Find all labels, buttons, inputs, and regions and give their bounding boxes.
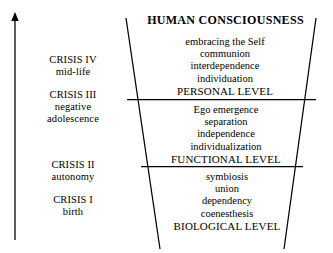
- level-personal-item-4: individuation: [130, 73, 320, 85]
- crisis-label-2-title: CRISIS II: [13, 159, 133, 171]
- crisis-label-1-subtitle: birth: [13, 206, 133, 218]
- level-biological-item-1: symbiosis: [142, 171, 312, 183]
- level-functional-item-1: Ego emergence: [136, 104, 316, 116]
- diagram-title: HUMAN CONSCIOUSNESS: [123, 13, 328, 28]
- crisis-label-3-subtitle: negative: [13, 101, 133, 113]
- consciousness-levels-diagram: HUMAN CONSCIOUSNESS CRISIS IV mid-life C…: [0, 0, 333, 253]
- crisis-label-2-subtitle: autonomy: [13, 171, 133, 183]
- level-block-biological: symbiosis union dependency coenesthesis …: [142, 171, 312, 233]
- crisis-label-4: CRISIS IV mid-life: [13, 54, 133, 78]
- level-functional-item-3: independence: [136, 128, 316, 140]
- crisis-label-2: CRISIS II autonomy: [13, 159, 133, 183]
- level-personal-item-2: communion: [130, 48, 320, 60]
- level-block-functional: Ego emergence separation independence in…: [136, 104, 316, 166]
- level-block-personal: embracing the Self communion interdepend…: [130, 36, 320, 98]
- level-biological-item-2: union: [142, 183, 312, 195]
- level-personal-name: PERSONAL LEVEL: [130, 85, 320, 98]
- level-biological-item-4: coenesthesis: [142, 208, 312, 220]
- crisis-label-3-subtitle-2: adolescence: [13, 113, 133, 125]
- crisis-label-3: CRISIS III negative adolescence: [13, 89, 133, 125]
- crisis-label-1-title: CRISIS I: [13, 194, 133, 206]
- crisis-label-1: CRISIS I birth: [13, 194, 133, 218]
- level-personal-item-3: interdependence: [130, 60, 320, 72]
- level-functional-item-2: separation: [136, 116, 316, 128]
- level-biological-item-3: dependency: [142, 195, 312, 207]
- crisis-label-4-subtitle: mid-life: [13, 66, 133, 78]
- level-biological-name: BIOLOGICAL LEVEL: [142, 220, 312, 233]
- crisis-label-3-title: CRISIS III: [13, 89, 133, 101]
- level-personal-item-1: embracing the Self: [130, 36, 320, 48]
- level-functional-name: FUNCTIONAL LEVEL: [136, 153, 316, 166]
- crisis-label-4-title: CRISIS IV: [13, 54, 133, 66]
- level-functional-item-4: individualization: [136, 141, 316, 153]
